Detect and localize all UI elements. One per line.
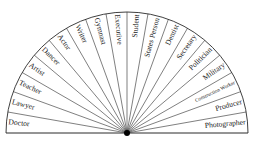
segment-label: Writer [73,23,90,45]
segment-label: States Person [142,17,161,59]
segment-label: Executive [113,14,125,46]
segment-label: Photographer [204,117,246,130]
segment-label: Lawyer [11,97,36,112]
segment-label: Gymnast [93,17,109,47]
segment-label: Doctor [8,117,30,128]
segment-label: Student [130,13,141,38]
segment-label: Military [201,60,227,82]
career-pendulum-chart: DoctorLawyerTeacherArtistDancerActorWrit… [0,0,256,146]
segment-label: Teacher [18,78,44,96]
segment-label: Artist [27,60,47,78]
segment-label: Dancer [40,45,62,67]
center-hub [124,130,130,136]
